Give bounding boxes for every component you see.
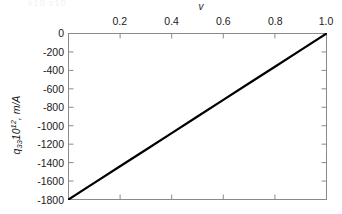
y-axis-exponent: 12: [9, 120, 18, 128]
y-tick-label-9: -1800: [22, 194, 64, 206]
y-tick-label-1: -200: [22, 46, 64, 58]
x-tick-label-1: 0.4: [164, 15, 179, 27]
x-tick-label-2: 0.6: [216, 15, 231, 27]
x-tick-label-3: 0.8: [268, 15, 283, 27]
chart-figure: x10 x10 v 0.2 0.4 0.6 0.8 1.0 0 -200 -40…: [0, 0, 342, 214]
y-tick-label-6: -1200: [22, 138, 64, 150]
x-tick-label-4: 1.0: [319, 15, 334, 27]
plot-svg: [68, 33, 327, 200]
y-tick-label-3: -600: [22, 83, 64, 95]
plot-area: [68, 33, 327, 200]
x-axis-title: v: [0, 1, 342, 13]
x-tick-label-0: 0.2: [112, 15, 127, 27]
y-axis-title: q331012, m/A: [8, 70, 26, 180]
y-tick-label-4: -800: [22, 101, 64, 113]
y-axis-subscript: 33: [15, 140, 24, 148]
y-axis-units: , m/A: [10, 96, 22, 121]
y-tick-label-8: -1600: [22, 175, 64, 187]
y-tick-label-5: -1000: [22, 120, 64, 132]
y-tick-label-0: 0: [22, 27, 64, 39]
y-axis-factor: 10: [10, 129, 22, 141]
y-tick-label-2: -400: [22, 64, 64, 76]
y-tick-label-7: -1400: [22, 157, 64, 169]
y-axis-symbol: q: [10, 149, 22, 155]
